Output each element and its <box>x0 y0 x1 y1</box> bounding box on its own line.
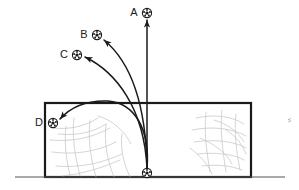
ball-patch-center <box>75 53 78 56</box>
texture-line <box>65 126 70 176</box>
wall-texture-left <box>50 116 131 177</box>
label-b: B <box>80 28 87 40</box>
ball-patch-center <box>95 33 98 36</box>
arrowhead-group <box>58 20 150 121</box>
label-c: C <box>60 48 68 60</box>
label-group: ABCD <box>35 6 138 128</box>
texture-line <box>98 116 131 144</box>
wall-texture-right <box>190 110 246 174</box>
texture-line <box>194 141 246 148</box>
trajectory-c <box>85 57 147 168</box>
origin-ball <box>142 168 151 177</box>
texture-line <box>105 124 114 177</box>
arrowhead-c <box>84 54 93 63</box>
label-d: D <box>35 116 43 128</box>
ball-c <box>72 50 81 59</box>
texture-line <box>192 128 246 136</box>
texture-line <box>56 154 122 167</box>
ball-patch-center <box>145 11 148 14</box>
ball-patch-center <box>145 171 148 174</box>
texture-line <box>196 116 244 124</box>
ball-b <box>92 30 101 39</box>
ball-d <box>48 118 57 127</box>
ball-patch-center <box>51 121 54 124</box>
stray-mark-strokes <box>288 119 291 123</box>
texture-line <box>52 118 98 129</box>
texture-line <box>62 160 120 176</box>
texture-line <box>214 120 244 142</box>
texture-line <box>89 120 96 177</box>
ball-a <box>142 8 151 17</box>
diagram-canvas: ABCD <box>0 0 299 190</box>
stray-mark <box>288 119 291 123</box>
label-a: A <box>130 6 138 18</box>
trajectory-group <box>60 20 147 168</box>
trajectory-diagram: ABCD <box>0 0 299 190</box>
